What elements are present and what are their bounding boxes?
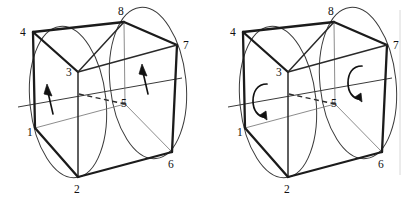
- right-figure-panel: 1 2 3 4 5 6 7 8: [210, 0, 420, 198]
- interior-edges-left: [35, 22, 172, 152]
- edge-3-7: [78, 45, 177, 72]
- vertex-label-2: 2: [74, 183, 80, 195]
- edge-2-6: [78, 152, 172, 177]
- vertex-label-4: 4: [230, 26, 236, 38]
- right-face-circle: [102, 3, 193, 162]
- left-cube-diagram: 1 2 3 4 5 6 7 8: [0, 0, 210, 198]
- edge-8-7: [334, 22, 387, 45]
- rotation-arrow-right-icon: [139, 64, 148, 94]
- edge-4-8: [243, 22, 334, 32]
- figure-container: 1 2 3 4 5 6 7 8: [0, 0, 420, 198]
- edge-5-6: [335, 104, 382, 152]
- vertex-label-3: 3: [66, 66, 72, 78]
- rotation-arrow-left-icon: [44, 84, 53, 114]
- right-cube-diagram: 1 2 3 4 5 6 7 8: [210, 0, 420, 198]
- rotation-axis: [18, 78, 182, 107]
- vertex-label-1: 1: [27, 126, 33, 138]
- edge-6-7: [172, 45, 177, 152]
- vertex-label-1: 1: [237, 126, 243, 138]
- edge-4-1: [243, 32, 245, 128]
- vertex-label-6: 6: [168, 158, 174, 170]
- rotation-arrows-left: [44, 64, 148, 114]
- left-figure-panel: 1 2 3 4 5 6 7 8: [0, 0, 210, 198]
- vertex-label-8: 8: [118, 5, 124, 17]
- edge-3-8: [288, 22, 334, 72]
- interior-edges-right: [245, 22, 382, 152]
- vertex-label-2: 2: [284, 183, 290, 195]
- right-face-circle: [312, 3, 403, 162]
- edge-1-5: [245, 104, 335, 128]
- left-face-circle: [232, 22, 323, 181]
- vertex-label-4: 4: [20, 26, 26, 38]
- edge-8-7: [124, 22, 177, 45]
- vertex-label-7: 7: [393, 39, 399, 51]
- vertex-label-5: 5: [331, 97, 337, 109]
- edge-5-6: [125, 104, 172, 152]
- edge-6-7: [382, 45, 387, 152]
- edge-2-6: [288, 152, 382, 177]
- edge-1-5: [35, 104, 125, 128]
- edge-3-8: [78, 22, 124, 72]
- vertex-label-7: 7: [183, 39, 189, 51]
- edge-5-8: [334, 22, 335, 104]
- edge-4-8: [33, 22, 124, 32]
- left-face-circle: [22, 22, 113, 181]
- vertex-label-8: 8: [328, 5, 334, 17]
- edge-4-1: [33, 32, 35, 128]
- edge-3-7: [288, 45, 387, 72]
- vertex-label-3: 3: [276, 66, 282, 78]
- vertex-label-5: 5: [121, 97, 127, 109]
- edge-5-8: [124, 22, 125, 104]
- vertex-label-6: 6: [378, 158, 384, 170]
